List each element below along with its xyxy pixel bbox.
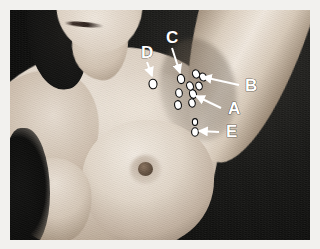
subject-nipple-near [138, 162, 153, 176]
clinical-photograph [10, 10, 310, 240]
figure-root: ABCDE [0, 0, 320, 249]
